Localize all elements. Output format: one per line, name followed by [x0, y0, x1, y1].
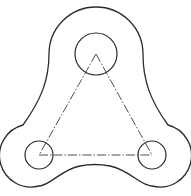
- technical-drawing: [0, 0, 191, 196]
- outer-profile: [0, 7, 191, 187]
